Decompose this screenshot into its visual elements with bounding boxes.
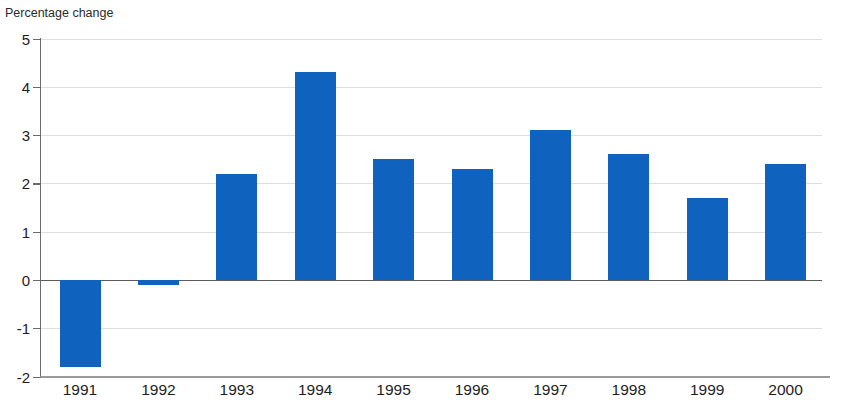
y-axis-caption: Percentage change: [5, 6, 113, 20]
x-axis-tick-label: 1997: [510, 381, 590, 399]
bar: [687, 198, 728, 280]
y-axis-tick-label: 4: [22, 78, 30, 95]
bar: [373, 159, 414, 280]
gridline: [40, 87, 822, 88]
y-axis-tick-label: 2: [22, 175, 30, 192]
y-axis-tick: [33, 232, 41, 233]
x-axis-tick-label: 1992: [118, 381, 198, 399]
bar: [530, 130, 571, 280]
y-axis-tick-label: 3: [22, 127, 30, 144]
x-axis-tick-label: 1991: [40, 381, 120, 399]
x-axis-tick-label: 1999: [667, 381, 747, 399]
y-axis-tick: [33, 183, 41, 184]
y-axis-tick: [33, 377, 41, 378]
y-axis-tick: [33, 87, 41, 88]
y-axis-tick: [33, 39, 41, 40]
chart-container: Percentage change 543210-1-2 19911992199…: [0, 0, 842, 411]
bar: [216, 174, 257, 280]
bar: [295, 72, 336, 280]
y-axis-tick-label: 1: [22, 223, 30, 240]
bar: [608, 154, 649, 280]
gridline: [40, 183, 822, 184]
gridline: [40, 328, 822, 329]
bar: [138, 280, 179, 285]
y-axis-tick-label: 5: [22, 30, 30, 47]
x-axis-tick-label: 1993: [197, 381, 277, 399]
chart-headline: [96, 0, 796, 5]
y-axis-tick-label: -1: [17, 320, 30, 337]
bar: [765, 164, 806, 280]
gridline: [40, 39, 822, 40]
bar: [60, 280, 101, 367]
y-axis-tick: [33, 135, 41, 136]
x-axis-tick-label: 1998: [589, 381, 669, 399]
bottom-rule: [40, 376, 830, 378]
y-axis-tick-label: 0: [22, 272, 30, 289]
y-axis-tick: [33, 328, 41, 329]
y-axis-line: [40, 38, 41, 377]
y-axis-tick: [33, 280, 41, 281]
x-axis-tick-label: 1994: [275, 381, 355, 399]
x-axis-tick-label: 1996: [432, 381, 512, 399]
y-axis-tick-label: -2: [17, 368, 30, 385]
bar: [452, 169, 493, 280]
x-axis-tick-label: 1995: [354, 381, 434, 399]
gridline: [40, 135, 822, 136]
x-axis-tick-label: 2000: [746, 381, 826, 399]
